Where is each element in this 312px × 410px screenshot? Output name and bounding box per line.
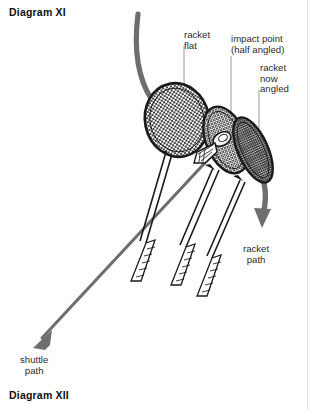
label-impact-point: impact point (half angled) bbox=[231, 34, 284, 55]
label-shuttle-path: shuttle path bbox=[20, 355, 48, 376]
label-racket-now-angled: racket now angled bbox=[260, 63, 289, 95]
grip-3 bbox=[197, 255, 221, 296]
grip-2 bbox=[171, 244, 195, 285]
diagram-caption-bottom: Diagram XII bbox=[9, 389, 69, 401]
racket-flat-position bbox=[131, 77, 216, 281]
label-racket-flat: racket flat bbox=[184, 30, 210, 51]
label-racket-path: racket path bbox=[243, 244, 269, 265]
diagram-caption-top: Diagram XI bbox=[9, 6, 66, 18]
grip-1 bbox=[131, 240, 155, 281]
